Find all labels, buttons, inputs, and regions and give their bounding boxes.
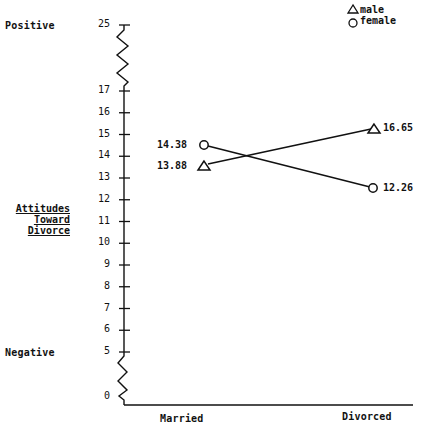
female-married-marker	[200, 141, 208, 149]
y-tick-label: 14	[88, 149, 110, 160]
y-axis-title-line-1: Attitudes	[6, 203, 70, 214]
y-tick-label: 9	[88, 258, 110, 269]
y-tick-label: 16	[88, 106, 110, 117]
y-tick-label: 11	[88, 215, 110, 226]
y-tick-label: 15	[88, 128, 110, 139]
legend-item-male: male	[347, 4, 396, 15]
legend: male female	[347, 4, 396, 26]
label-female-divorced: 12.26	[383, 182, 413, 193]
y-anchor-positive: Positive	[5, 20, 55, 31]
male-married-marker	[198, 161, 210, 170]
axis-break-bottom	[118, 352, 127, 405]
y-tick-label: 12	[88, 193, 110, 204]
female-divorced-marker	[369, 184, 377, 192]
x-category-divorced: Divorced	[342, 411, 392, 422]
y-tick-label: 6	[88, 323, 110, 334]
female-line	[208, 146, 370, 187]
y-axis-title-line-3: Divorce	[6, 225, 70, 236]
y-tick-label: 13	[88, 171, 110, 182]
y-tick-label: 0	[88, 390, 110, 401]
x-category-married: Married	[160, 413, 204, 424]
y-tick-label: 8	[88, 280, 110, 291]
y-anchor-negative: Negative	[5, 347, 55, 358]
y-tick-label: 17	[88, 84, 110, 95]
y-tick-label: 25	[88, 18, 110, 29]
legend-item-female: female	[347, 15, 396, 26]
label-female-married: 14.38	[157, 139, 187, 150]
label-male-divorced: 16.65	[383, 122, 413, 133]
label-male-married: 13.88	[157, 160, 187, 171]
y-axis-title-line-2: Toward	[6, 214, 70, 225]
y-tick-label: 5	[88, 345, 110, 356]
y-tick-label: 10	[88, 236, 110, 247]
y-axis-title: Attitudes Toward Divorce	[6, 203, 70, 236]
y-tick-label: 7	[88, 302, 110, 313]
axis-break-top	[117, 25, 128, 91]
male-line	[208, 129, 371, 164]
